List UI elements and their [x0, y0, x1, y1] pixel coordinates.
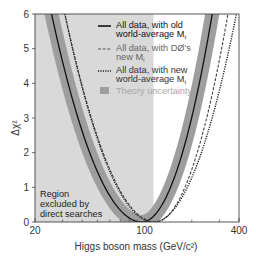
legend-label-theory: Theory uncertainty [116, 86, 192, 96]
y-tick-label: 5 [23, 43, 29, 54]
y-axis-title: Δχ² [10, 120, 21, 136]
x-tick-label: 20 [29, 225, 41, 236]
y-tick-label: 6 [23, 9, 29, 20]
legend-swatch-band [100, 87, 109, 94]
legend-label-new-line2: world-average Mt [115, 74, 186, 85]
y-tick-label: 4 [23, 78, 29, 89]
y-tick-label: 2 [23, 147, 29, 158]
chi2-higgs-mass-chart: 0123456 20100400 Δχ² Higgs boson mass (G… [0, 0, 256, 259]
region-label-line2: excluded by [40, 199, 89, 209]
x-axis-title: Higgs boson mass (GeV/c²) [75, 241, 198, 252]
x-tick-label: 400 [231, 225, 248, 236]
legend-label-old-line2: world-average Mt [115, 29, 186, 40]
region-label-line3: direct searches [40, 209, 103, 219]
y-tick-label: 3 [23, 113, 29, 124]
legend-label-d0-line2: new Mt [116, 52, 145, 63]
y-tick-label: 1 [23, 182, 29, 193]
region-label-line1: Region [40, 189, 69, 199]
y-axis: 0123456 [23, 9, 35, 228]
x-tick-label: 100 [136, 225, 153, 236]
